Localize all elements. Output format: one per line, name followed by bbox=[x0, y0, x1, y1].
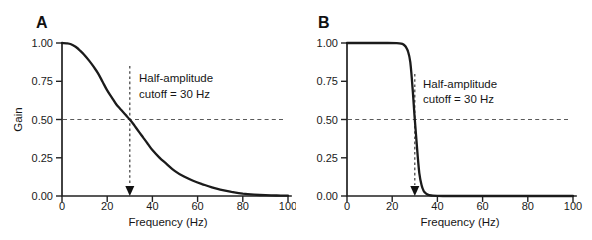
panel-a: 0204060801000.000.250.500.751.00 A Half-… bbox=[0, 0, 296, 240]
panel-b: 0204060801000.000.250.500.751.00 B Half-… bbox=[296, 0, 592, 240]
filter-frequency-response-figure: 0204060801000.000.250.500.751.00 A Half-… bbox=[0, 0, 592, 240]
panel-a-label: A bbox=[36, 14, 48, 31]
cutoff-arrowhead-icon bbox=[410, 186, 419, 196]
x-tick-label: 0 bbox=[59, 200, 65, 212]
panel-a-annotation-line1: Half-amplitude bbox=[139, 72, 213, 84]
y-tick-label: 1.00 bbox=[317, 37, 338, 49]
x-tick-label: 100 bbox=[564, 200, 582, 212]
y-tick-label: 0.25 bbox=[317, 152, 338, 164]
panel-b-label: B bbox=[318, 14, 330, 31]
y-tick-label: 0.50 bbox=[317, 114, 338, 126]
x-tick-label: 60 bbox=[191, 200, 203, 212]
y-tick-label: 0.00 bbox=[317, 190, 338, 202]
panel-a-y-axis-title: Gain bbox=[12, 107, 24, 131]
panel-a-x-axis-title: Frequency (Hz) bbox=[128, 216, 207, 228]
x-tick-label: 40 bbox=[146, 200, 158, 212]
x-tick-label: 100 bbox=[279, 200, 296, 212]
cutoff-arrowhead-icon bbox=[125, 186, 134, 196]
x-tick-label: 0 bbox=[344, 200, 350, 212]
x-tick-label: 40 bbox=[431, 200, 443, 212]
panel-a-annotation-line2: cutoff = 30 Hz bbox=[139, 88, 210, 100]
y-tick-label: 0.50 bbox=[32, 114, 53, 126]
y-tick-label: 0.75 bbox=[32, 75, 53, 87]
y-tick-label: 1.00 bbox=[32, 37, 53, 49]
panel-b-x-axis-title: Frequency (Hz) bbox=[420, 216, 499, 228]
y-tick-label: 0.25 bbox=[32, 152, 53, 164]
axes-lines bbox=[347, 43, 576, 196]
panel-b-plot: 0204060801000.000.250.500.751.00 bbox=[317, 37, 583, 212]
y-tick-label: 0.00 bbox=[32, 190, 53, 202]
x-tick-label: 60 bbox=[476, 200, 488, 212]
x-tick-label: 20 bbox=[101, 200, 113, 212]
panel-b-annotation-line1: Half-amplitude bbox=[423, 78, 497, 90]
panel-b-annotation-line2: cutoff = 30 Hz bbox=[423, 93, 494, 105]
x-tick-label: 20 bbox=[386, 200, 398, 212]
x-tick-label: 80 bbox=[237, 200, 249, 212]
panel-a-plot: 0204060801000.000.250.500.751.00 bbox=[32, 37, 296, 212]
x-tick-label: 80 bbox=[522, 200, 534, 212]
y-tick-label: 0.75 bbox=[317, 75, 338, 87]
